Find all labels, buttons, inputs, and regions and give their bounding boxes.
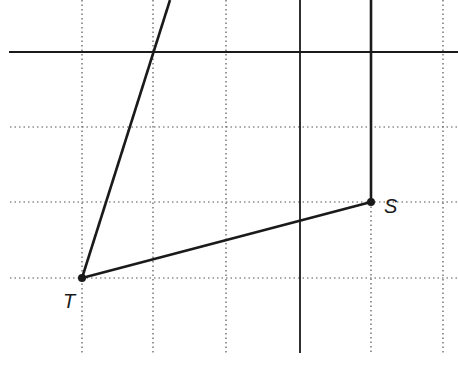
label-s: S bbox=[384, 195, 398, 217]
label-t: T bbox=[63, 290, 77, 312]
point-t bbox=[78, 274, 86, 282]
point-s bbox=[367, 198, 375, 206]
segment-t-top bbox=[82, 0, 170, 278]
diagram-canvas: T S bbox=[0, 0, 458, 367]
